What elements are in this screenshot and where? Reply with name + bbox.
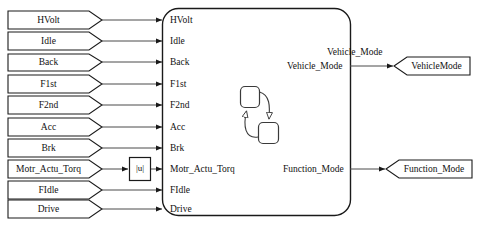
chart-port-acc: Acc: [170, 123, 185, 133]
input-label-f2nd: F2nd: [8, 101, 89, 111]
input-label-f1st: F1st: [8, 80, 89, 90]
output-label-function-mode: Function_Mode: [397, 165, 471, 175]
chart-port-drive: Drive: [170, 205, 192, 215]
input-label-back: Back: [8, 58, 89, 68]
output-signal-lines: [350, 66, 393, 169]
chart-port-motr-actu-torq: Motr_Actu_Torq: [170, 165, 235, 175]
output-label-vehiclemode: VehicleMode: [405, 62, 468, 72]
chart-port-f1st: F1st: [170, 80, 186, 90]
chart-port-vehicle-mode: Vehicle_Mode: [287, 62, 342, 72]
signal-label-vehicle-mode: Vehicle_Mode: [327, 48, 382, 58]
state-a-shape[interactable]: [241, 87, 260, 108]
chart-port-fidle: FIdle: [170, 186, 190, 196]
stateflow-chart-box[interactable]: [163, 9, 351, 216]
input-label-drive: Drive: [8, 205, 89, 215]
diagram-vector-layer: [0, 0, 477, 231]
input-label-acc: Acc: [8, 123, 89, 133]
input-label-hvolt: HVolt: [8, 16, 89, 26]
chart-port-function-mode: Function_Mode: [283, 165, 344, 175]
chart-port-idle: Idle: [170, 37, 185, 47]
chart-port-back: Back: [170, 58, 190, 68]
input-label-motr-actu-torq: Motr_Actu_Torq: [6, 165, 91, 175]
input-label-fidle: FIdle: [8, 186, 89, 196]
output-block-group: [386, 57, 472, 178]
chart-port-brk: Brk: [170, 144, 184, 154]
diagram-canvas: HVolt Idle Back F1st F2nd Acc Brk Motr_A…: [0, 0, 477, 231]
chart-port-hvolt: HVolt: [170, 16, 193, 26]
state-b-shape[interactable]: [259, 123, 279, 144]
abs-block-label: |u|: [129, 164, 151, 173]
input-label-idle: Idle: [8, 37, 89, 47]
chart-port-f2nd: F2nd: [170, 101, 190, 111]
input-label-brk: Brk: [8, 144, 89, 154]
